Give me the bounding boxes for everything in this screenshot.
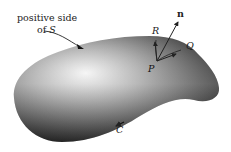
curve-c-label: C — [116, 125, 123, 135]
positive-side-label-line1: positive side — [17, 13, 77, 23]
point-p-label: P — [148, 64, 154, 74]
surface-s-label: S — [49, 24, 56, 35]
normal-label: n — [177, 9, 184, 19]
point-r-label: R — [152, 26, 159, 36]
positive-side-label-line2: of S — [37, 25, 56, 35]
point-q-label: Q — [186, 41, 194, 51]
positive-side-of-text: of — [37, 24, 49, 35]
